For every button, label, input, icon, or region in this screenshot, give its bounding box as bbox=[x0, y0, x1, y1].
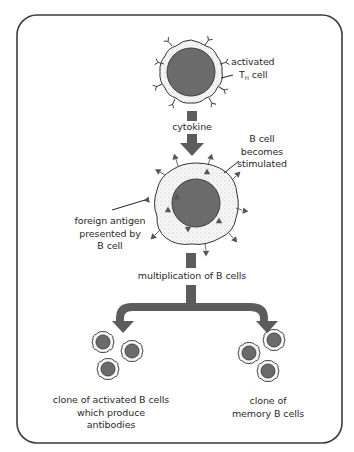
b-cell-label-line3: stimulated bbox=[222, 158, 302, 171]
clone-memory-line2: memory B cells bbox=[220, 408, 316, 421]
antigen-label-leader bbox=[112, 200, 145, 210]
memory-b-clone bbox=[238, 329, 285, 381]
antigen-label-line2: presented by bbox=[60, 228, 160, 241]
b-cell-label-line2: becomes bbox=[222, 146, 302, 159]
b-cell-stimulated-label: B cell becomes stimulated bbox=[222, 133, 302, 171]
multiplication-label: multiplication of B cells bbox=[121, 270, 263, 283]
clone-activated-line3: antibodies bbox=[40, 419, 182, 432]
cytokine-label-text: cytokine bbox=[162, 121, 222, 134]
multiplication-arrow bbox=[112, 253, 278, 333]
clone-activated-label: clone of activated B cells which produce… bbox=[40, 394, 182, 432]
activated-b-clone bbox=[92, 331, 143, 379]
th-cell-label-line2: TH cell bbox=[231, 69, 275, 85]
antigen-label-line1: foreign antigen bbox=[60, 215, 160, 228]
th-cell-nucleus bbox=[167, 48, 215, 96]
clone-memory-line1: clone of bbox=[220, 395, 316, 408]
antigen-label-line3: B cell bbox=[60, 240, 160, 253]
th-cell-label-line1: activated bbox=[231, 56, 275, 69]
foreign-antigen-label: foreign antigen presented by B cell bbox=[60, 215, 160, 253]
clone-memory-label: clone of memory B cells bbox=[220, 395, 316, 420]
diagram-canvas bbox=[0, 0, 354, 452]
th-cell bbox=[153, 36, 233, 109]
clone-activated-line2: which produce bbox=[40, 407, 182, 420]
cytokine-label: cytokine bbox=[162, 121, 222, 134]
clone-activated-line1: clone of activated B cells bbox=[40, 394, 182, 407]
b-cell-label-line1: B cell bbox=[222, 133, 302, 146]
multiplication-label-text: multiplication of B cells bbox=[121, 270, 263, 283]
b-cell-nucleus bbox=[172, 179, 220, 227]
cytokine-arrow bbox=[180, 111, 204, 156]
th-cell-label: activated TH cell bbox=[231, 56, 275, 84]
